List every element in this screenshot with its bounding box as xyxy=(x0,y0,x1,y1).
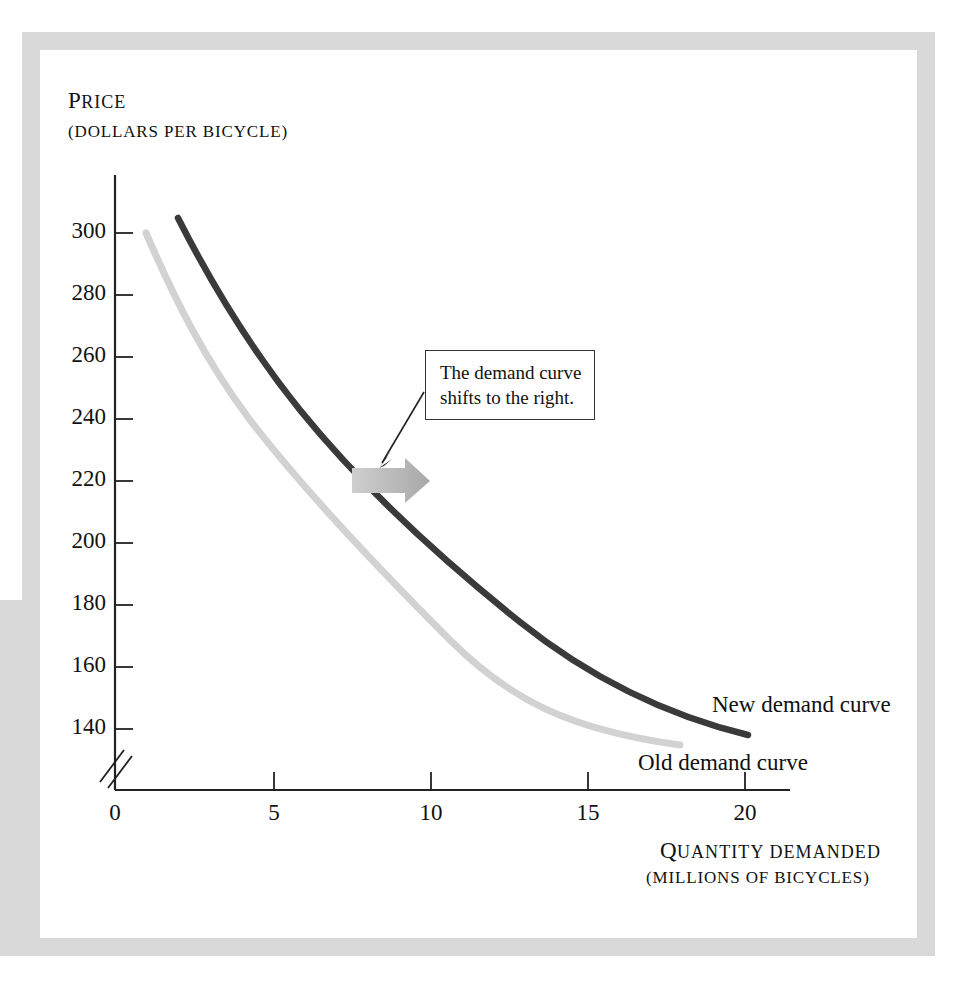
x-tick-label-5: 5 xyxy=(254,800,294,826)
y-tick-label-300: 300 xyxy=(48,218,106,244)
callout-text: The demand curve shifts to the right. xyxy=(440,360,590,410)
x-axis-title-lead: Q xyxy=(660,838,677,863)
y-axis-title: PRICE xyxy=(68,88,126,114)
callout-leader-line xyxy=(379,392,424,468)
x-tick-label-20: 20 xyxy=(725,800,765,826)
axes xyxy=(115,175,790,790)
x-axis-title-rest: UANTITY DEMANDED xyxy=(677,842,881,862)
demand-curve-chart: 300 280 260 240 220 200 180 160 140 0 5 … xyxy=(0,0,970,1003)
new-demand-curve-label: New demand curve xyxy=(712,692,891,718)
y-tick-label-240: 240 xyxy=(48,404,106,430)
x-tick-label-15: 15 xyxy=(568,800,608,826)
new-demand-curve xyxy=(178,218,748,735)
y-axis-title-rest: RICE xyxy=(81,92,126,112)
shift-arrow-icon xyxy=(352,458,430,503)
y-axis-ticks xyxy=(115,233,133,729)
y-tick-label-180: 180 xyxy=(48,590,106,616)
x-tick-label-0: 0 xyxy=(95,800,135,826)
y-tick-label-200: 200 xyxy=(48,528,106,554)
callout-line-2: shifts to the right. xyxy=(440,387,574,408)
y-axis-title-lead: P xyxy=(68,88,81,113)
callout-box: The demand curve shifts to the right. xyxy=(425,350,595,420)
y-axis-subtitle: (DOLLARS PER BICYCLE) xyxy=(68,122,288,142)
y-tick-label-280: 280 xyxy=(48,280,106,306)
y-tick-label-260: 260 xyxy=(48,342,106,368)
y-tick-label-140: 140 xyxy=(48,714,106,740)
old-demand-curve-label: Old demand curve xyxy=(638,750,808,776)
y-tick-label-160: 160 xyxy=(48,652,106,678)
y-tick-label-220: 220 xyxy=(48,466,106,492)
x-axis-title: QUANTITY DEMANDED xyxy=(660,838,881,864)
x-axis-subtitle: (MILLIONS OF BICYCLES) xyxy=(646,868,870,888)
x-tick-label-10: 10 xyxy=(411,800,451,826)
callout-line-1: The demand curve xyxy=(440,362,581,383)
